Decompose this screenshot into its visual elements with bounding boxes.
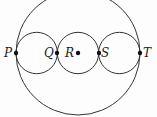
large-circle <box>16 0 140 115</box>
label-p: P <box>3 46 13 60</box>
point-t <box>138 51 142 55</box>
geometry-diagram: P Q R S T <box>0 0 157 117</box>
point-r <box>76 51 80 55</box>
label-r: R <box>64 46 74 60</box>
label-q: Q <box>44 46 54 60</box>
point-p <box>14 51 18 55</box>
diagram-svg: P Q R S T <box>0 0 157 117</box>
label-s: S <box>101 46 109 60</box>
point-q <box>55 51 59 55</box>
label-t: T <box>143 46 152 60</box>
